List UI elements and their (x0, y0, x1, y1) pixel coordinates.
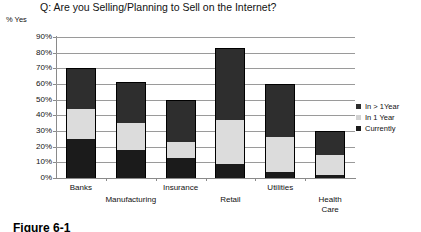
gridline (56, 115, 355, 116)
gridline (56, 100, 355, 101)
bar-segment-in-1year (166, 100, 196, 142)
gridline (56, 84, 355, 85)
x-category-label-banks: Banks (47, 183, 115, 193)
x-category-label-utilities: Utilities (246, 183, 314, 193)
legend-item-currently: Currently (356, 123, 420, 134)
bar-segment-currently (265, 172, 295, 178)
chart-title: Q: Are you Selling/Planning to Sell on t… (40, 1, 380, 13)
bar-segment-in-1year (265, 84, 295, 137)
plot-area (56, 37, 355, 178)
bar-segment-currently (215, 164, 245, 178)
bar-segment-in-1year (315, 131, 345, 155)
bar-top-edge (166, 100, 196, 101)
bar-insurance (166, 37, 196, 178)
legend-label-currently: Currently (365, 124, 395, 133)
x-category-label-health-care: Health Care (296, 195, 364, 214)
gridline (56, 53, 355, 54)
bar-segment-in-1-year (166, 142, 196, 158)
gridline (56, 162, 355, 163)
bar-segment-in-1year (116, 82, 146, 123)
x-category-label-manufacturing: Manufacturing (97, 195, 165, 205)
bar-segment-in-1-year (66, 109, 96, 139)
legend-item-in1year: In 1 Year (356, 112, 420, 123)
x-category-label-retail: Retail (196, 195, 264, 205)
x-tick-mark (156, 178, 157, 181)
chart-figure: Q: Are you Selling/Planning to Sell on t… (0, 0, 421, 232)
y-tick-label-text: 60% (22, 80, 52, 88)
x-category-label-insurance: Insurance (147, 183, 215, 193)
y-tick-label-text: 40% (22, 111, 52, 119)
x-tick-mark (255, 178, 256, 181)
bar-health-care (315, 37, 345, 178)
legend-label-in1year: In 1 Year (365, 113, 395, 122)
y-tick-label-text: 90% (22, 33, 52, 41)
bar-segment-in-1-year (265, 137, 295, 171)
gridline (56, 147, 355, 148)
bar-top-edge (66, 68, 96, 69)
y-axis-title: % Yes (6, 15, 27, 24)
figure-caption: Figure 6-1 (13, 221, 70, 232)
y-tick-label-text: 70% (22, 64, 52, 72)
y-tick-label-text: 50% (22, 96, 52, 104)
bar-top-edge (315, 131, 345, 132)
bar-top-edge (215, 48, 245, 49)
gridline (56, 131, 355, 132)
legend-item-gt1year: In > 1Year (356, 101, 420, 112)
x-tick-mark (106, 178, 107, 181)
y-tick-label-text: 10% (22, 158, 52, 166)
legend-label-gt1year: In > 1Year (365, 102, 399, 111)
bar-segment-currently (116, 150, 146, 178)
bar-banks (66, 37, 96, 178)
bar-manufacturing (116, 37, 146, 178)
chart-legend: In > 1Year In 1 Year Currently (356, 101, 420, 134)
bar-segment-in-1year (66, 68, 96, 109)
y-tick-label-text: 80% (22, 49, 52, 57)
y-tick-label-text: 0% (22, 174, 52, 182)
bar-segment-currently (66, 139, 96, 178)
x-tick-mark (305, 178, 306, 181)
bar-segment-in-1-year (116, 123, 146, 150)
x-tick-mark (206, 178, 207, 181)
bar-retail (215, 37, 245, 178)
bar-segment-in-1-year (215, 120, 245, 164)
legend-swatch-icon-currently (356, 126, 361, 131)
bar-segment-in-1year (215, 48, 245, 120)
legend-swatch-icon-in1year (356, 115, 361, 120)
bar-segment-currently (315, 175, 345, 178)
legend-swatch-icon-gt1year (356, 104, 361, 109)
y-tick-label-text: 20% (22, 143, 52, 151)
bar-utilities (265, 37, 295, 178)
y-tick-mark (53, 178, 56, 179)
bar-segment-currently (166, 158, 196, 178)
bar-segment-in-1-year (315, 155, 345, 175)
bar-top-edge (116, 82, 146, 83)
gridline (56, 68, 355, 69)
gridline (56, 37, 355, 38)
bar-top-edge (265, 84, 295, 85)
y-tick-label-text: 30% (22, 127, 52, 135)
